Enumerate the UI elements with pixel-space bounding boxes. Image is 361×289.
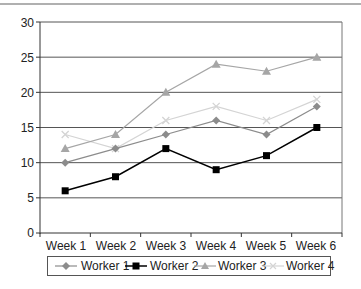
x-tick-label: Week 3 [146,239,187,253]
data-point-square-marker [213,166,220,173]
x-tick-label: Week 5 [246,239,287,253]
data-point-x-marker [263,117,270,124]
data-series [61,53,322,195]
y-tick-label: 5 [27,191,34,205]
data-point-diamond-marker [212,116,220,124]
data-point-diamond-marker [61,159,69,167]
legend-label: Worker 1 [81,259,130,273]
y-tick-label: 10 [21,156,35,170]
y-tick-label: 15 [21,121,35,135]
series-worker-4 [62,96,321,152]
square-marker-icon [133,263,140,270]
data-point-x-marker [213,103,220,110]
data-point-x-marker [62,131,69,138]
line-chart: 0 5 10 15 20 25 30 Week 1 Week 2 Week 3 … [0,0,361,289]
y-axis-labels: 0 5 10 15 20 25 30 [21,16,35,240]
y-tick-label: 20 [21,86,35,100]
data-point-diamond-marker [263,131,271,139]
legend-label: Worker 3 [218,259,267,273]
y-tick-label: 25 [21,51,35,65]
legend-label: Worker 4 [286,259,335,273]
y-tick-label: 30 [21,16,35,30]
data-point-diamond-marker [313,102,321,110]
data-point-diamond-marker [162,131,170,139]
data-point-square-marker [263,152,270,159]
data-point-square-marker [112,173,119,180]
legend-label: Worker 2 [150,259,199,273]
y-tick-label: 0 [27,226,34,240]
x-axis-labels: Week 1 Week 2 Week 3 Week 4 Week 5 Week … [46,239,337,253]
data-point-triangle-marker [212,60,221,68]
series-worker-2 [62,124,321,194]
series-worker-1 [61,102,321,166]
data-point-square-marker [162,145,169,152]
data-point-x-marker [313,96,320,103]
x-tick-label: Week 6 [296,239,337,253]
axes [36,22,342,237]
series-worker-3 [61,53,322,152]
x-tick-label: Week 2 [96,239,137,253]
data-point-x-marker [162,117,169,124]
x-tick-label: Week 1 [46,239,87,253]
data-point-square-marker [313,124,320,131]
data-point-square-marker [62,187,69,194]
x-tick-label: Week 4 [196,239,237,253]
